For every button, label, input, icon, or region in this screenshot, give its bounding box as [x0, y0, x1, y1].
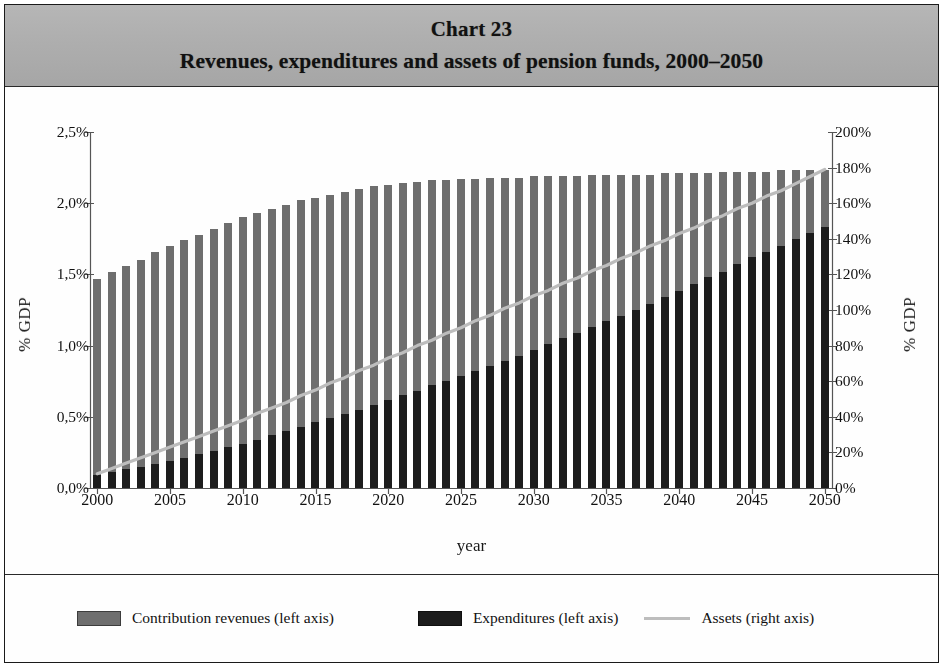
x-axis-tick: 2050 [809, 491, 841, 509]
y-axis-right-tick: 100% [835, 301, 871, 319]
x-axis-tick: 2035 [590, 491, 622, 509]
y-axis-left-tick: 1,5% [57, 265, 89, 283]
legend-swatch-revenues [77, 611, 121, 626]
x-axis-tick-labels: 2000200520102015202020252030203520402045… [5, 491, 938, 517]
chart-legend: Contribution revenues (left axis) Expend… [5, 574, 938, 662]
y-axis-left-tick: 2,5% [57, 123, 89, 141]
x-axis-tick: 2020 [372, 491, 404, 509]
y-axis-right-tick: 60% [835, 372, 863, 390]
x-axis-tick: 2010 [227, 491, 259, 509]
x-axis-tick: 2040 [663, 491, 695, 509]
y-axis-right-tick: 120% [835, 265, 871, 283]
y-axis-left-tick: 1,0% [57, 337, 89, 355]
y-axis-left-tick: 2,0% [57, 194, 89, 212]
chart-number-title: Chart 23 [431, 17, 513, 42]
legend-item-contribution-revenues: Contribution revenues (left axis) [77, 609, 334, 627]
y-axis-right-tick: 180% [835, 159, 871, 177]
y-axis-right-tick: 20% [835, 443, 863, 461]
y-axis-right-tick: 80% [835, 337, 863, 355]
x-axis-tick: 2030 [518, 491, 550, 509]
chart-subject-title: Revenues, expenditures and assets of pen… [180, 49, 763, 74]
x-axis-tick: 2000 [81, 491, 113, 509]
y-axis-right-title: % GDP [900, 297, 920, 352]
legend-label-expenditures: Expenditures (left axis) [473, 609, 618, 627]
x-axis-tick: 2015 [300, 491, 332, 509]
plot-region: % GDP % GDP 0,0%0,5%1,0%1,5%2,0%2,5% 0%2… [5, 87, 938, 574]
chart-figure: Chart 23 Revenues, expenditures and asse… [4, 4, 939, 663]
y-axis-right-tick: 160% [835, 194, 871, 212]
y-axis-right-tick: 200% [835, 123, 871, 141]
chart-title-banner: Chart 23 Revenues, expenditures and asse… [5, 5, 938, 87]
legend-swatch-expenditures [418, 611, 462, 626]
y-axis-right-tick: 40% [835, 408, 863, 426]
legend-item-assets: Assets (right axis) [644, 609, 814, 627]
x-axis-tick: 2045 [736, 491, 768, 509]
y-axis-left-title: % GDP [15, 297, 35, 352]
legend-label-revenues: Contribution revenues (left axis) [132, 609, 334, 627]
x-axis-title: year [5, 536, 938, 556]
x-axis-tick: 2025 [445, 491, 477, 509]
y-axis-right-tick: 140% [835, 230, 871, 248]
x-axis-tick: 2005 [154, 491, 186, 509]
y-axis-left-tick: 0,5% [57, 408, 89, 426]
legend-swatch-assets [644, 617, 690, 620]
legend-label-assets: Assets (right axis) [701, 609, 814, 627]
legend-item-expenditures: Expenditures (left axis) [418, 609, 618, 627]
